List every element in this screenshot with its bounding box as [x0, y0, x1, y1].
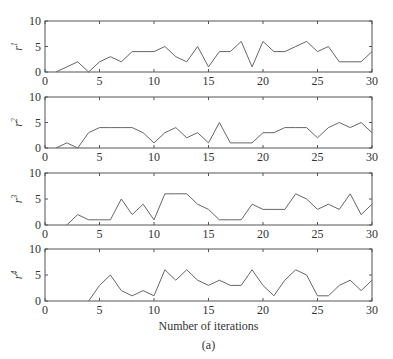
y-tick-label: 0: [35, 218, 41, 232]
x-tick-label: 5: [97, 150, 103, 164]
figure: 0510152025300510r10510152025300510r20510…: [0, 0, 393, 359]
series-line-r4: [89, 270, 372, 301]
x-tick-label: 10: [148, 227, 160, 241]
y-axis-label: r1: [10, 42, 25, 51]
x-tick-label: 0: [42, 150, 48, 164]
x-tick-label: 10: [148, 74, 160, 88]
x-axis-label: Number of iterations: [159, 319, 259, 333]
x-tick-label: 15: [203, 303, 215, 317]
y-axis-label: r2: [10, 118, 25, 127]
x-tick-label: 5: [97, 74, 103, 88]
subplot-r3: 0510152025300510r3: [10, 166, 378, 241]
series-line-r1: [56, 41, 372, 72]
x-tick-label: 5: [97, 227, 103, 241]
x-tick-label: 30: [366, 227, 378, 241]
x-tick-label: 20: [257, 227, 269, 241]
axes-frame: [45, 21, 372, 72]
y-tick-label: 5: [35, 40, 41, 54]
series-line-r3: [67, 194, 372, 225]
x-tick-label: 10: [148, 303, 160, 317]
axes-frame: [45, 173, 372, 225]
axes-frame: [45, 97, 372, 148]
series-line-r2: [56, 123, 372, 149]
x-tick-label: 25: [312, 150, 324, 164]
y-tick-label: 5: [35, 268, 41, 282]
y-tick-label: 10: [29, 166, 41, 180]
x-tick-label: 25: [312, 303, 324, 317]
x-tick-label: 20: [257, 150, 269, 164]
y-axis-label: r4: [10, 271, 25, 280]
x-tick-label: 15: [203, 227, 215, 241]
x-tick-label: 30: [366, 150, 378, 164]
x-tick-label: 10: [148, 150, 160, 164]
figure-caption: (a): [202, 338, 215, 352]
y-tick-label: 10: [29, 14, 41, 28]
x-tick-label: 0: [42, 74, 48, 88]
y-tick-label: 0: [35, 294, 41, 308]
y-tick-label: 5: [35, 116, 41, 130]
x-tick-label: 15: [203, 150, 215, 164]
x-tick-label: 20: [257, 74, 269, 88]
x-tick-label: 0: [42, 227, 48, 241]
x-tick-label: 0: [42, 303, 48, 317]
subplot-r4: 0510152025300510r4: [10, 242, 378, 317]
y-tick-label: 0: [35, 65, 41, 79]
x-tick-label: 20: [257, 303, 269, 317]
x-tick-label: 30: [366, 74, 378, 88]
x-tick-label: 25: [312, 227, 324, 241]
x-tick-label: 30: [366, 303, 378, 317]
x-tick-label: 25: [312, 74, 324, 88]
y-axis-label: r3: [10, 195, 25, 204]
x-tick-label: 15: [203, 74, 215, 88]
y-tick-label: 10: [29, 242, 41, 256]
subplot-r1: 0510152025300510r1: [10, 14, 378, 88]
y-tick-label: 5: [35, 192, 41, 206]
y-tick-label: 0: [35, 141, 41, 155]
y-tick-label: 10: [29, 90, 41, 104]
x-tick-label: 5: [97, 303, 103, 317]
subplot-r2: 0510152025300510r2: [10, 90, 378, 164]
